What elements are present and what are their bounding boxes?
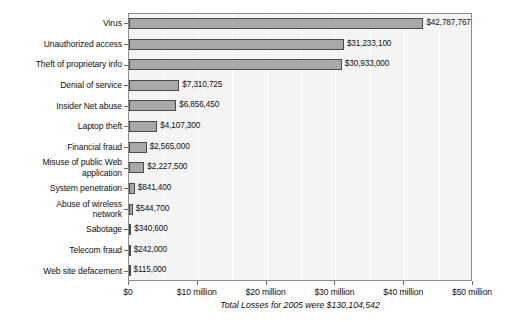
category-axis: VirusUnauthorized accessTheft of proprie… [0,13,126,281]
category-label: Theft of proprietary info [36,59,122,69]
bar-value-label: $340,600 [134,222,167,236]
bar [129,100,176,111]
bar-chart: $42,787,767$31,233,100$30,933,000$7,310,… [0,0,509,322]
value-tick-label: $50 million [452,286,492,298]
category-tick [124,250,128,251]
bar-row: $242,000 [129,241,471,262]
bar [129,142,147,153]
bar-row: $42,787,767 [129,14,471,35]
bar-value-label: $2,227,500 [147,160,187,174]
category-tick [124,23,128,24]
category-label: Telecom fraud [69,245,122,255]
category-label: Financial fraud [67,142,122,152]
bar-row: $841,400 [129,179,471,200]
bar [129,80,179,91]
bar-value-label: $4,107,300 [160,119,200,133]
bar-value-label: $841,400 [138,181,171,195]
bar-value-label: $6,856,450 [179,98,219,112]
bar-row: $544,700 [129,200,471,221]
category-label: Laptop theft [78,121,122,131]
category-tick [124,44,128,45]
bar-value-label: $242,000 [134,243,167,257]
bar [129,162,144,173]
plot-area: $42,787,767$31,233,100$30,933,000$7,310,… [128,13,472,281]
category-tick [124,271,128,272]
bar-value-label: $7,310,725 [182,78,222,92]
bar-value-label: $42,787,767 [426,16,470,30]
category-tick [124,106,128,107]
category-tick [124,65,128,66]
bar-value-label: $30,933,000 [345,57,389,71]
category-label: Sabotage [86,224,122,234]
bar-row: $7,310,725 [129,76,471,97]
bar-value-label: $2,565,000 [150,140,190,154]
value-tick [266,281,267,285]
bar-row: $2,227,500 [129,158,471,179]
value-tick-label: $10 million [177,286,217,298]
value-tick [128,281,129,285]
value-tick-label: $20 million [246,286,286,298]
bar-value-label: $31,233,100 [347,37,391,51]
bar-row: $2,565,000 [129,138,471,159]
category-tick [124,209,128,210]
value-tick [334,281,335,285]
value-tick-label: $0 [123,286,132,298]
bar [129,121,157,132]
value-tick [472,281,473,285]
bar-row: $340,600 [129,220,471,241]
value-tick [197,281,198,285]
bar-row: $30,933,000 [129,55,471,76]
category-label: Insider Net abuse [56,101,122,111]
category-label: Denial of service [60,80,122,90]
bar [129,224,131,235]
bar [129,18,423,29]
bar-rows: $42,787,767$31,233,100$30,933,000$7,310,… [129,14,471,280]
bar-row: $6,856,450 [129,96,471,117]
chart-caption: Total Losses for 2005 were $130,104,542 [128,300,472,310]
bar-row: $31,233,100 [129,35,471,56]
bar-row: $115,000 [129,261,471,282]
bar [129,39,344,50]
bar [129,265,131,276]
bar [129,204,133,215]
category-tick [124,147,128,148]
category-label: Web site defacement [43,266,122,276]
bar [129,245,131,256]
bar-value-label: $544,700 [136,202,169,216]
category-tick [124,188,128,189]
gridline-major [473,14,474,280]
category-label: System penetration [50,183,122,193]
value-tick-label: $30 million [314,286,354,298]
value-tick-label: $40 million [383,286,423,298]
category-tick [124,168,128,169]
bar-value-label: $115,000 [134,263,167,277]
category-tick [124,126,128,127]
category-label: Misuse of public Web application [42,157,122,177]
category-tick [124,85,128,86]
category-label: Unauthorized access [44,39,122,49]
bar-row: $4,107,300 [129,117,471,138]
category-tick [124,229,128,230]
bar [129,183,135,194]
bar [129,59,342,70]
category-label: Abuse of wireless network [56,199,122,219]
value-tick [403,281,404,285]
category-label: Virus [103,18,122,28]
